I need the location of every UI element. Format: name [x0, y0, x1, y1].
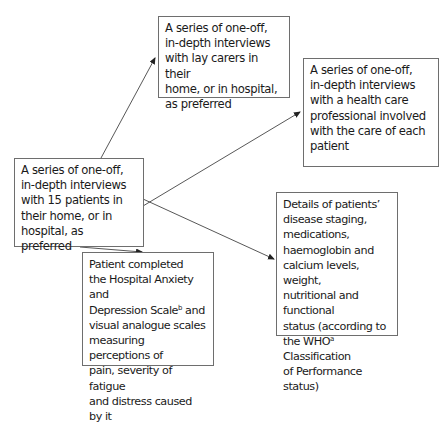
footnote-marker: a — [330, 335, 334, 343]
node-text-line: in-depth interviews — [310, 78, 432, 93]
node-text-line: patient — [310, 139, 432, 154]
node-text-line: the WHOa Classification — [283, 334, 391, 364]
node-text-line: with lay carers in their — [165, 51, 283, 81]
node-health-professional: A series of one-off, in-depth interviews… — [303, 58, 439, 167]
node-text-line: professional involved — [310, 109, 432, 124]
node-text-line: in-depth interviews — [165, 36, 283, 51]
node-text-line: A series of one-off, — [310, 63, 432, 78]
arrow-to-patient-details — [143, 199, 274, 259]
node-text-line: pain, severity of fatigue — [89, 363, 207, 393]
node-text-line: hospital, as preferred — [21, 224, 137, 254]
node-text-line: Details of patients’ — [283, 197, 391, 212]
node-text-line: measuring perceptions of — [89, 333, 207, 363]
node-patient-details: Details of patients’ disease staging, me… — [276, 192, 398, 336]
node-text-line: haemoglobin and — [283, 243, 391, 258]
node-lay-carers: A series of one-off, in-depth interviews… — [158, 16, 290, 98]
node-text-line: status (according to — [283, 319, 391, 334]
node-text-line: visual analogue scales — [89, 318, 207, 333]
node-text-line: in-depth interviews — [21, 178, 137, 193]
node-text-line: of Performance status) — [283, 364, 391, 394]
node-text-line: disease staging, — [283, 212, 391, 227]
node-text-line: with the care of each — [310, 124, 432, 139]
node-text-line: Patient completed — [89, 257, 207, 272]
node-text-line: and distress caused by it — [89, 394, 207, 424]
node-text-line: A series of one-off, — [21, 163, 137, 178]
node-text-line: nutritional and functional — [283, 288, 391, 318]
arrow-to-lay-carers — [101, 58, 155, 158]
node-text-line: Depression Scaleb and — [89, 303, 207, 318]
node-text-line: with a health care — [310, 93, 432, 108]
node-text-line: with 15 patients in — [21, 193, 137, 208]
node-text-line: calcium levels, weight, — [283, 258, 391, 288]
node-questionnaires: Patient completed the Hospital Anxiety a… — [82, 252, 214, 366]
node-text-line: their home, or in — [21, 209, 137, 224]
node-text-line: A series of one-off, — [165, 21, 283, 36]
node-text-line: as preferred — [165, 97, 283, 112]
node-text-line: medications, — [283, 227, 391, 242]
node-text-line: the Hospital Anxiety and — [89, 272, 207, 302]
node-patients: A series of one-off, in-depth interviews… — [14, 158, 144, 247]
node-text-line: home, or in hospital, — [165, 82, 283, 97]
